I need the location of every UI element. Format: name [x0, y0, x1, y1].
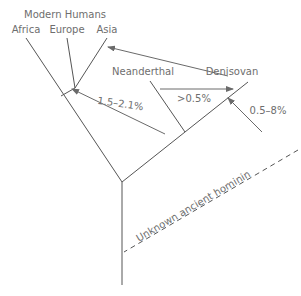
neanderthal-eurasian-percent: 1.5–2.1%: [97, 95, 144, 112]
asia-label: Asia: [97, 24, 118, 35]
neanderthal-denisovan-percent: >0.5%: [177, 93, 211, 104]
neanderthal-label: Neanderthal: [112, 66, 174, 77]
admixture-arrows: [72, 47, 262, 134]
africa-branch: [26, 38, 122, 182]
asia-branch: [75, 38, 107, 88]
unknown-denisovan-percent: 0.5–8%: [250, 105, 287, 116]
unknown-hominin-label: Unknown ancient hominin: [134, 168, 252, 243]
phylogenetic-tree-diagram: Modern Humans Africa Europe Asia Neander…: [0, 0, 301, 296]
europe-label: Europe: [49, 24, 84, 35]
europe-branch: [67, 38, 75, 88]
africa-label: Africa: [12, 24, 41, 35]
denisovan-label: Denisovan: [206, 66, 259, 77]
modern-humans-title: Modern Humans: [24, 9, 106, 20]
